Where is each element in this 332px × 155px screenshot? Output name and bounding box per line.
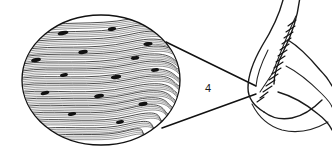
muscle-tissue-figure: 4 — [0, 0, 332, 155]
figure-canvas: 4 — [0, 0, 332, 155]
callout-label-4: 4 — [205, 82, 211, 94]
